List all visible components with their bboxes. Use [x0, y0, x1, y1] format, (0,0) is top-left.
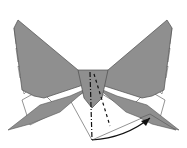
upper-wings: [14, 20, 172, 108]
origami-diagram: [0, 0, 187, 148]
butterfly-diagram-svg: [0, 0, 187, 148]
left-upper-wing: [14, 20, 92, 98]
